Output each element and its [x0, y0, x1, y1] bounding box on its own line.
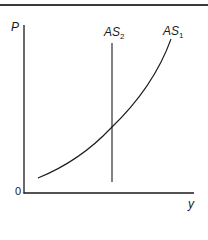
as1-label-name: AS — [163, 24, 179, 38]
as2-label-name: AS — [104, 25, 120, 39]
x-axis-label: y — [188, 198, 194, 210]
as1-label-subscript: 1 — [179, 31, 183, 40]
as1-label: AS1 — [163, 25, 183, 42]
y-axis-label: P — [11, 21, 19, 33]
as2-label: AS2 — [104, 26, 124, 43]
as1-curve — [38, 39, 171, 178]
origin-label: 0 — [15, 186, 21, 197]
as2-label-subscript: 2 — [120, 32, 124, 41]
